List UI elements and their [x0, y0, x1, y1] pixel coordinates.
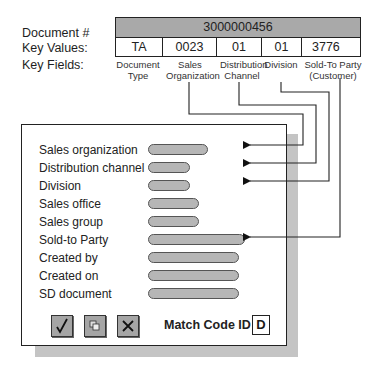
- connector-distribution-channel: [239, 82, 316, 163]
- connector-division: [250, 82, 329, 181]
- connector-sold-to-party: [250, 78, 340, 237]
- connector-lines: [0, 0, 375, 374]
